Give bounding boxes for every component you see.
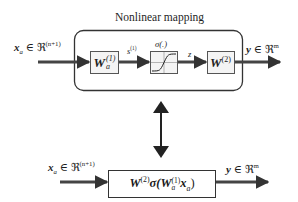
weight-block-2: W(2) xyxy=(207,51,235,74)
nonlinear-mapping-title: Nonlinear mapping xyxy=(115,12,204,24)
combined-mapping-expression: W(2)σ(W(1)axa) xyxy=(129,176,194,192)
input-dim: (n+1) xyxy=(46,40,61,47)
combined-mapping-block: W(2)σ(W(1)axa) xyxy=(108,170,216,198)
weight-block-1: W(1)a xyxy=(90,51,119,74)
top-output-label: y ∈ ℜm xyxy=(246,44,279,55)
top-input-label: xa ∈ ℜ(n+1) xyxy=(14,42,61,53)
bottom-output-label: y ∈ ℜm xyxy=(226,164,259,175)
bottom-input-label: xa ∈ ℜ(n+1) xyxy=(48,162,95,173)
weight-block-2-label: W(2) xyxy=(208,52,234,73)
sigmoid-icon xyxy=(151,52,178,74)
signal-s1-label: s(1) xyxy=(127,47,136,56)
double-arrow-icon xyxy=(153,101,169,158)
input-relation: ∈ ℜ xyxy=(23,41,46,53)
activation-label: σ(.) xyxy=(155,40,167,49)
weight-block-1-label: W(1)a xyxy=(91,52,118,73)
signal-z-label: z xyxy=(188,50,191,59)
